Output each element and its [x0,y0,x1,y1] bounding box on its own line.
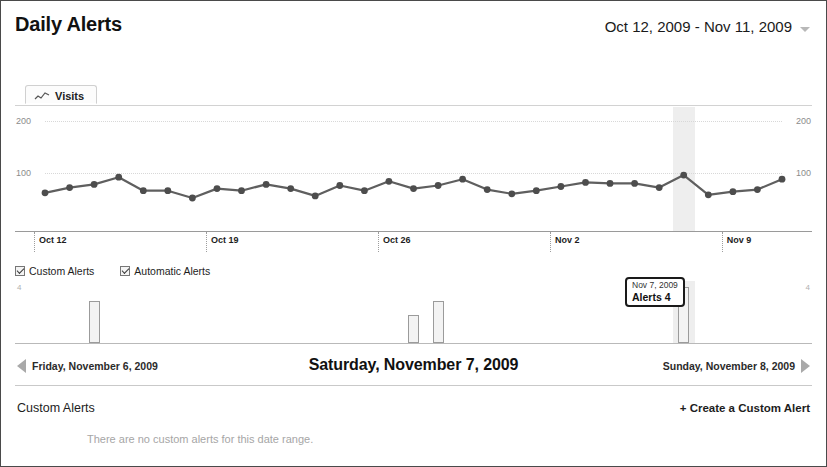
alert-bar[interactable] [89,301,100,343]
chevron-down-icon[interactable] [800,27,810,32]
x-axis-tick: Nov 2 [550,232,580,252]
day-navigation: Friday, November 6, 2009 Saturday, Novem… [15,353,812,386]
x-axis-tick: Oct 12 [34,232,67,252]
triangle-right-icon [801,359,810,373]
alerts-bar-chart[interactable]: 4 4 [15,281,812,344]
x-axis-tick: Nov 9 [722,232,752,252]
page-title: Daily Alerts [15,13,122,36]
alert-bar[interactable] [408,315,419,343]
custom-alerts-title: Custom Alerts [17,401,95,415]
chart-x-axis: Oct 12Oct 19Oct 26Nov 2Nov 9 [15,231,812,252]
custom-alerts-empty-message: There are no custom alerts for this date… [87,433,313,445]
alerts-filter-legend: Custom Alerts Automatic Alerts [15,263,812,279]
visits-series-plot [15,107,812,231]
alerts-tooltip: Nov 7, 2009 Alerts 4 [625,277,685,307]
bar-axis-label-left: 4 [17,283,21,292]
filter-custom-alerts-label: Custom Alerts [29,265,94,277]
next-day-label: Sunday, November 8, 2009 [663,360,795,372]
filter-automatic-alerts-label: Automatic Alerts [134,265,210,277]
next-day-button[interactable]: Sunday, November 8, 2009 [663,359,810,373]
date-range-selector[interactable]: Oct 12, 2009 - Nov 11, 2009 [605,18,792,35]
filter-custom-alerts[interactable]: Custom Alerts [15,265,94,277]
create-custom-alert-link[interactable]: + Create a Custom Alert [680,402,810,414]
panel-header: Daily Alerts Oct 12, 2009 - Nov 11, 2009 [1,1,826,53]
x-axis-tick: Oct 26 [378,232,411,252]
chart-tabstrip: Visits [15,85,812,106]
custom-alerts-section: Custom Alerts + Create a Custom Alert Th… [15,393,812,455]
tooltip-value: Alerts 4 [632,292,678,304]
daily-alerts-panel: Daily Alerts Oct 12, 2009 - Nov 11, 2009… [0,0,827,467]
bar-axis-label-right: 4 [806,283,810,292]
tab-visits-label: Visits [55,90,84,102]
sparkline-icon [34,87,50,105]
x-axis-tick: Oct 19 [206,232,239,252]
checkbox-automatic-alerts[interactable] [120,266,130,276]
filter-automatic-alerts[interactable]: Automatic Alerts [120,265,210,277]
visits-line-chart[interactable]: 200 200 100 100 [15,107,812,231]
alert-bar[interactable] [433,301,444,343]
checkbox-custom-alerts[interactable] [15,266,25,276]
tooltip-date: Nov 7, 2009 [632,280,678,292]
tab-visits[interactable]: Visits [25,85,97,104]
